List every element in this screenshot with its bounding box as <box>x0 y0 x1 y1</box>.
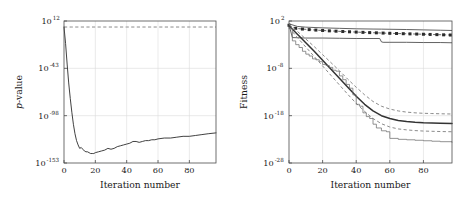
svg-text:-43: -43 <box>50 62 59 68</box>
panel-p-value: 020406080101210-4310-9810-153Iteration n… <box>0 0 230 207</box>
svg-text:10: 10 <box>35 158 45 168</box>
svg-text:10: 10 <box>41 16 51 26</box>
svg-text:Fitness: Fitness <box>238 75 249 109</box>
fitness-plot: 02040608010210-810-1810-28Iteration numb… <box>230 0 461 207</box>
svg-text:10: 10 <box>266 63 276 73</box>
svg-text:2: 2 <box>281 15 285 21</box>
svg-text:10: 10 <box>263 111 273 121</box>
svg-text:10: 10 <box>263 158 273 168</box>
svg-text:60: 60 <box>385 165 395 175</box>
svg-text:40: 40 <box>121 165 131 175</box>
p-value-plot: 020406080101210-4310-9810-153Iteration n… <box>0 0 230 207</box>
svg-text:60: 60 <box>153 165 163 175</box>
svg-text:40: 40 <box>351 165 361 175</box>
svg-text:-153: -153 <box>47 157 60 163</box>
svg-text:0: 0 <box>61 165 66 175</box>
svg-text:10: 10 <box>38 111 48 121</box>
svg-text:-8: -8 <box>278 62 284 68</box>
svg-text:10: 10 <box>269 16 279 26</box>
svg-text:0: 0 <box>286 165 291 175</box>
svg-text:12: 12 <box>53 15 61 21</box>
svg-text:Iteration number: Iteration number <box>331 179 411 190</box>
figure-container: 020406080101210-4310-9810-153Iteration n… <box>0 0 461 207</box>
svg-text:-98: -98 <box>50 110 59 116</box>
svg-text:20: 20 <box>317 165 327 175</box>
svg-text:-18: -18 <box>275 110 284 116</box>
svg-text:80: 80 <box>184 165 194 175</box>
svg-text:-28: -28 <box>275 157 284 163</box>
svg-text:80: 80 <box>418 165 428 175</box>
svg-text:20: 20 <box>90 165 100 175</box>
panel-fitness: 02040608010210-810-1810-28Iteration numb… <box>230 0 461 207</box>
svg-text:p-value: p-value <box>13 75 24 109</box>
svg-text:Iteration number: Iteration number <box>100 179 180 190</box>
svg-text:10: 10 <box>38 63 48 73</box>
